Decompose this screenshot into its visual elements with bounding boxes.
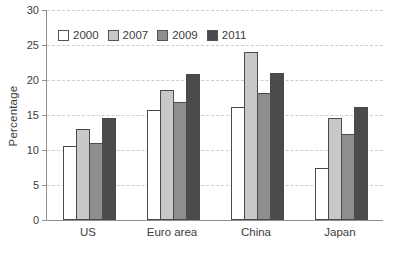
legend: 2000200720092011 bbox=[58, 29, 247, 41]
legend-item-2009: 2009 bbox=[157, 29, 198, 41]
y-tick-mark-30 bbox=[42, 10, 46, 11]
bar-china-2000 bbox=[231, 107, 245, 220]
plot-area bbox=[46, 10, 383, 221]
y-tick-mark-0 bbox=[42, 220, 46, 221]
y-tick-mark-15 bbox=[42, 115, 46, 116]
legend-label-2009: 2009 bbox=[172, 29, 198, 41]
bar-us-2009 bbox=[89, 143, 103, 220]
bar-euro-area-2009 bbox=[173, 102, 187, 220]
x-category-label: China bbox=[214, 226, 298, 238]
bar-china-2009 bbox=[257, 93, 271, 220]
gridline-25 bbox=[47, 45, 383, 46]
legend-swatch-2000 bbox=[58, 30, 69, 41]
legend-swatch-2007 bbox=[108, 30, 119, 41]
bar-euro-area-2011 bbox=[186, 74, 200, 220]
y-tick-mark-25 bbox=[42, 45, 46, 46]
bar-euro-area-2000 bbox=[147, 110, 161, 220]
y-tick-mark-10 bbox=[42, 150, 46, 151]
legend-item-2007: 2007 bbox=[108, 29, 149, 41]
bar-china-2007 bbox=[244, 52, 258, 220]
bar-japan-2000 bbox=[315, 168, 329, 220]
bar-euro-area-2007 bbox=[160, 90, 174, 220]
bar-japan-2007 bbox=[328, 118, 342, 220]
bar-us-2007 bbox=[76, 129, 90, 220]
gridline-20 bbox=[47, 80, 383, 81]
y-tick-label-10: 10 bbox=[9, 144, 39, 157]
y-tick-label-15: 15 bbox=[9, 109, 39, 122]
y-tick-label-30: 30 bbox=[9, 4, 39, 17]
bar-china-2011 bbox=[270, 73, 284, 220]
bar-japan-2011 bbox=[354, 107, 368, 220]
legend-swatch-2009 bbox=[157, 30, 168, 41]
legend-label-2000: 2000 bbox=[73, 29, 99, 41]
bar-japan-2009 bbox=[341, 134, 355, 220]
gridline-30 bbox=[47, 10, 383, 11]
legend-item-2011: 2011 bbox=[207, 29, 247, 41]
x-category-label: US bbox=[46, 226, 130, 238]
bar-us-2000 bbox=[63, 146, 77, 220]
legend-item-2000: 2000 bbox=[58, 29, 99, 41]
y-tick-label-20: 20 bbox=[9, 74, 39, 87]
x-category-label: Euro area bbox=[130, 226, 214, 238]
x-category-label: Japan bbox=[298, 226, 382, 238]
y-tick-mark-20 bbox=[42, 80, 46, 81]
bar-chart: Percentage 051015202530 USEuro areaChina… bbox=[0, 0, 393, 253]
bar-us-2011 bbox=[102, 118, 116, 220]
y-tick-label-0: 0 bbox=[9, 214, 39, 227]
y-tick-label-5: 5 bbox=[9, 179, 39, 192]
y-tick-mark-5 bbox=[42, 185, 46, 186]
legend-swatch-2011 bbox=[207, 30, 218, 41]
legend-label-2011: 2011 bbox=[222, 29, 247, 41]
gridline-15 bbox=[47, 115, 383, 116]
y-tick-label-25: 25 bbox=[9, 39, 39, 52]
legend-label-2007: 2007 bbox=[123, 29, 149, 41]
